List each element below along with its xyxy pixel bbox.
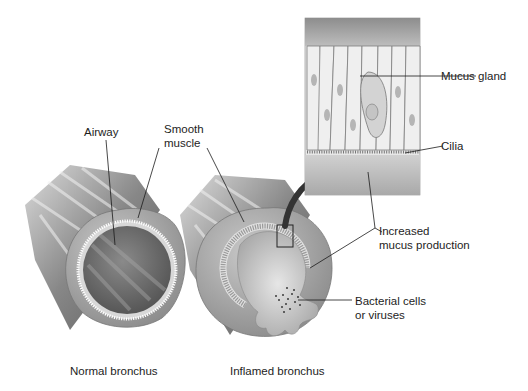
inflamed-bronchus: [180, 175, 332, 336]
epithelium-inset: [305, 18, 420, 195]
normal-bronchus: [25, 165, 185, 330]
mucus-gland-label: Mucus gland: [441, 70, 506, 83]
bronchus-illustration: [0, 0, 528, 391]
normal-bronchus-caption: Normal bronchus: [70, 365, 158, 377]
bacterial-cells-label-line1: Bacterial cells: [355, 295, 426, 308]
airway-label: Airway: [84, 126, 119, 139]
cilia-label: Cilia: [441, 140, 463, 153]
increased-mucus-label-line2: mucus production: [379, 239, 470, 252]
smooth-muscle-label-line2: muscle: [164, 137, 200, 150]
bacterial-cells-label-line2: or viruses: [355, 309, 405, 322]
increased-mucus-label-line1: Increased: [379, 225, 430, 238]
smooth-muscle-label-line1: Smooth: [164, 123, 204, 136]
inflamed-bronchus-caption: Inflamed bronchus: [230, 365, 325, 377]
